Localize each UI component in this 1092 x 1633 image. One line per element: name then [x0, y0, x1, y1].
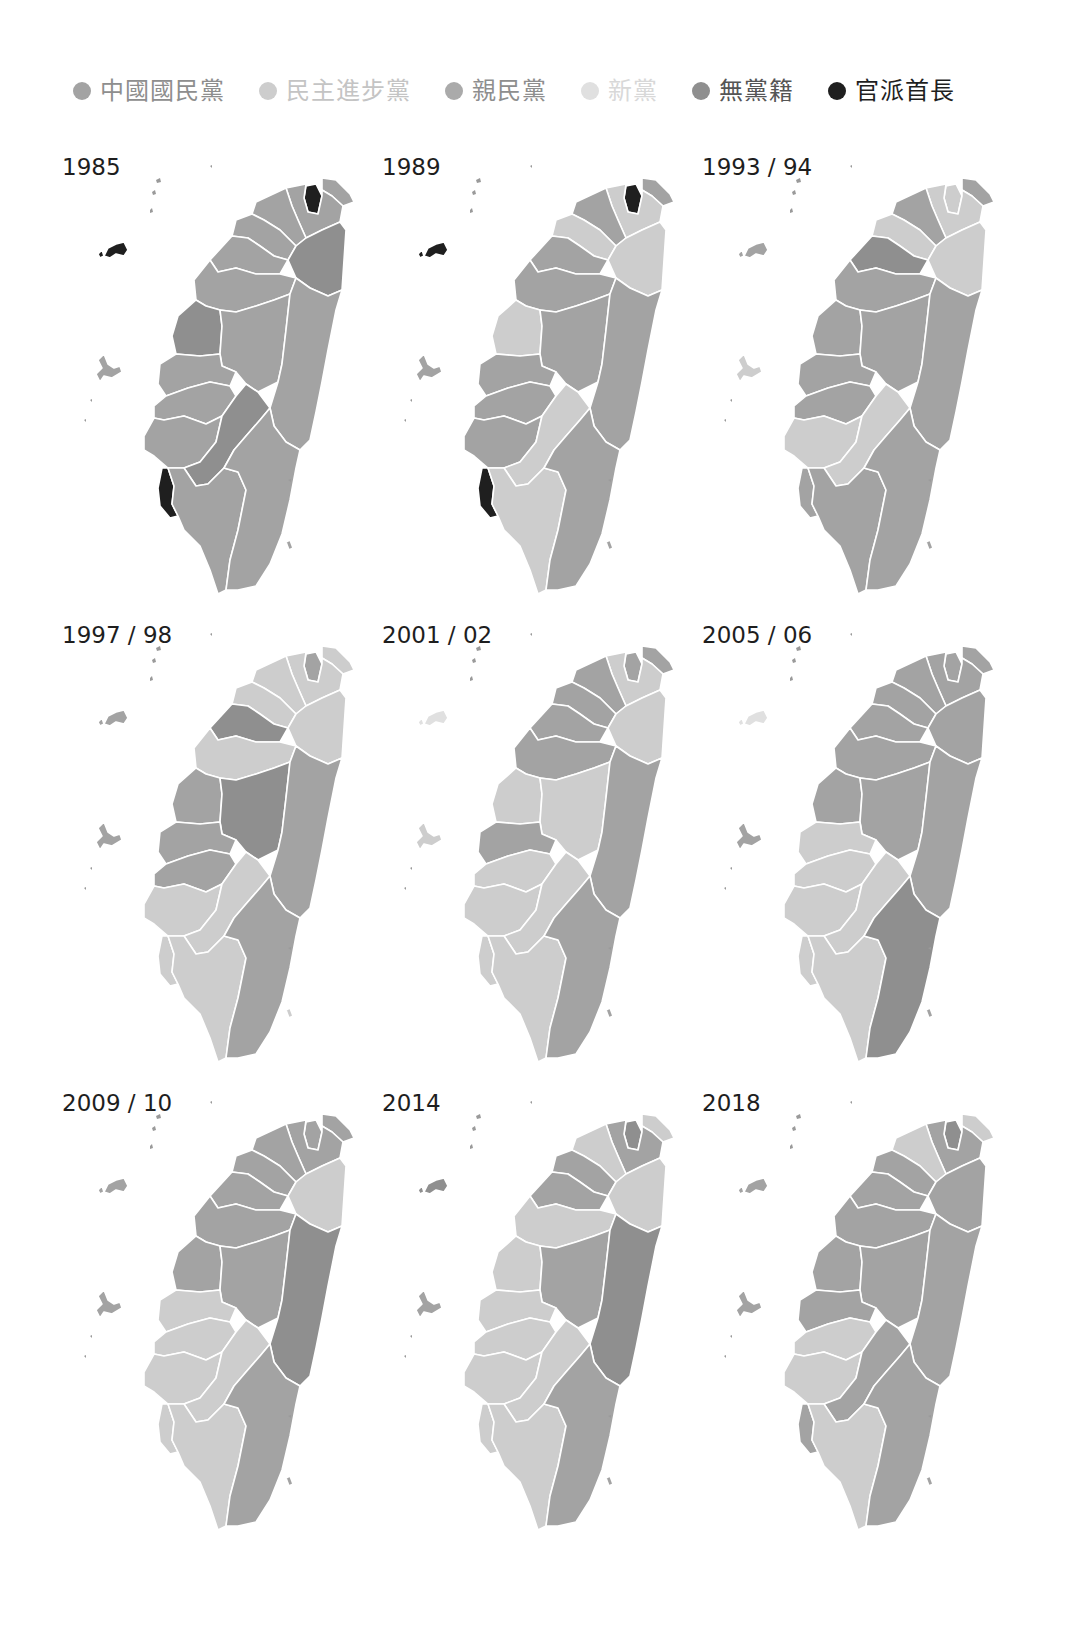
legend-label: 無黨籍 [719, 76, 794, 106]
region-changhua [172, 1236, 222, 1292]
taiwan-map [380, 1086, 700, 1546]
map-panel-2009-10: 2009 / 10 [60, 1086, 380, 1546]
legend-item-dpp: 民主進步黨 [259, 76, 411, 106]
panel-year-label: 2009 / 10 [62, 1090, 172, 1116]
map-panel-2018: 2018 [700, 1086, 1020, 1546]
map-panel-1989: 1989 [380, 150, 700, 610]
region-kinmen [738, 710, 768, 726]
panel-year-label: 2014 [382, 1090, 441, 1116]
region-lanyu [926, 1008, 933, 1018]
legend-label: 中國國民黨 [100, 76, 225, 106]
legend-swatch-icon [445, 82, 463, 100]
legend-item-kmt: 中國國民黨 [73, 76, 225, 106]
panel-year-label: 1985 [62, 154, 121, 180]
region-penghu [736, 822, 762, 850]
region-kinmen [98, 242, 128, 258]
legend-label: 親民黨 [472, 76, 547, 106]
region-kinmen [738, 1178, 768, 1194]
map-panel-2005-06: 2005 / 06 [700, 618, 1020, 1078]
region-kinmen [98, 710, 128, 726]
region-penghu [736, 1290, 762, 1318]
legend-swatch-icon [828, 82, 846, 100]
taiwan-map [60, 1086, 380, 1546]
taiwan-map [380, 618, 700, 1078]
panel-year-label: 2005 / 06 [702, 622, 812, 648]
legend-label: 官派首長 [855, 76, 955, 106]
region-changhua [812, 1236, 862, 1292]
taiwan-map [380, 150, 700, 610]
region-penghu [96, 354, 122, 382]
map-panel-2014: 2014 [380, 1086, 700, 1546]
taiwan-map [700, 1086, 1020, 1546]
region-lanyu [926, 540, 933, 550]
region-changhua [492, 768, 542, 824]
region-kinmen [738, 242, 768, 258]
panel-year-label: 2018 [702, 1090, 761, 1116]
map-panel-1997-98: 1997 / 98 [60, 618, 380, 1078]
region-lanyu [926, 1476, 933, 1486]
legend-item-ind: 無黨籍 [692, 76, 794, 106]
map-panel-1985: 1985 [60, 150, 380, 610]
region-changhua [492, 300, 542, 356]
taiwan-map [60, 150, 380, 610]
region-lanyu [286, 540, 293, 550]
panel-year-label: 2001 / 02 [382, 622, 492, 648]
region-changhua [172, 768, 222, 824]
legend-swatch-icon [581, 82, 599, 100]
region-lanyu [606, 540, 613, 550]
region-lanyu [286, 1476, 293, 1486]
panel-year-label: 1997 / 98 [62, 622, 172, 648]
region-kinmen [418, 710, 448, 726]
region-kinmen [98, 1178, 128, 1194]
region-penghu [416, 822, 442, 850]
region-penghu [96, 1290, 122, 1318]
region-changhua [492, 1236, 542, 1292]
region-changhua [812, 768, 862, 824]
legend-swatch-icon [73, 82, 91, 100]
legend-item-pfp: 親民黨 [445, 76, 547, 106]
region-penghu [416, 354, 442, 382]
taiwan-map [60, 618, 380, 1078]
panel-year-label: 1989 [382, 154, 441, 180]
legend-item-appt: 官派首長 [828, 76, 955, 106]
region-penghu [416, 1290, 442, 1318]
legend-label: 新黨 [608, 76, 658, 106]
region-changhua [812, 300, 862, 356]
taiwan-map [700, 150, 1020, 610]
region-kinmen [418, 1178, 448, 1194]
region-penghu [96, 822, 122, 850]
legend-swatch-icon [259, 82, 277, 100]
legend-swatch-icon [692, 82, 710, 100]
region-lanyu [286, 1008, 293, 1018]
region-changhua [172, 300, 222, 356]
panel-year-label: 1993 / 94 [702, 154, 812, 180]
map-panel-2001-02: 2001 / 02 [380, 618, 700, 1078]
legend-item-np: 新黨 [581, 76, 658, 106]
region-kinmen [418, 242, 448, 258]
map-panel-1993-94: 1993 / 94 [700, 150, 1020, 610]
legend-label: 民主進步黨 [286, 76, 411, 106]
legend: 中國國民黨 民主進步黨 親民黨 新黨 無黨籍 官派首長 [73, 76, 989, 106]
region-penghu [736, 354, 762, 382]
region-lanyu [606, 1476, 613, 1486]
taiwan-map [700, 618, 1020, 1078]
region-lanyu [606, 1008, 613, 1018]
